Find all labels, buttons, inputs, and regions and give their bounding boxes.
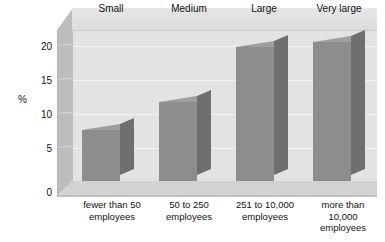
bar-more-than-10000	[313, 36, 351, 181]
header-large: Large	[228, 3, 300, 14]
bar-front-face	[159, 102, 197, 181]
y-tick-label-5: 5	[26, 143, 52, 154]
bar-251-to-10000	[236, 41, 274, 181]
x-label-line1: more than	[303, 199, 383, 211]
y-tick-label-0: 0	[26, 187, 52, 198]
header-band-side	[57, 8, 73, 30]
bar-front-face	[313, 42, 351, 181]
x-label-line2: employees	[215, 211, 315, 223]
y-tick-label-20: 20	[26, 41, 52, 52]
y-axis-title: %	[18, 94, 27, 105]
x-label-line1: 251 to 10,000	[215, 199, 315, 211]
bar-side-face	[351, 30, 365, 175]
x-label-more-than-10000: more than 10,000 employees	[303, 199, 383, 234]
header-very-large: Very large	[300, 3, 378, 14]
bar-50-to-250	[159, 96, 197, 181]
y-axis-line	[57, 30, 58, 197]
bar-fewer-than-50	[82, 124, 120, 181]
bar-front-face	[236, 47, 274, 181]
x-label-line3: employees	[303, 222, 383, 234]
x-label-251-to-10000: 251 to 10,000 employees	[215, 199, 315, 222]
bar-side-face	[274, 35, 288, 175]
y-tick-label-15: 15	[26, 75, 52, 86]
header-medium: Medium	[150, 3, 228, 14]
x-label-line2: 10,000	[303, 211, 383, 223]
bar-front-face	[82, 130, 120, 181]
y-tick-label-10: 10	[26, 109, 52, 120]
bar-chart: Small Medium Large Very large	[0, 0, 385, 242]
header-small: Small	[72, 3, 150, 14]
bar-side-face	[197, 90, 211, 175]
plot-floor-front-edge	[57, 195, 377, 197]
bar-side-face	[120, 118, 134, 175]
